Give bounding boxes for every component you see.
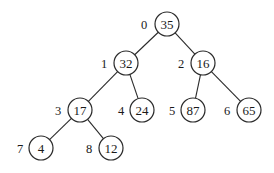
node-value: 4 — [38, 141, 45, 156]
tree-node-4: 244 — [118, 98, 154, 122]
node-index-label: 8 — [86, 142, 92, 156]
node-value: 87 — [187, 103, 201, 118]
node-index-label: 4 — [118, 104, 125, 118]
node-value: 12 — [105, 141, 118, 156]
tree-edge — [130, 74, 138, 98]
node-value: 17 — [74, 103, 88, 118]
node-index-label: 2 — [178, 57, 184, 71]
tree-edge — [175, 33, 195, 54]
node-value: 32 — [120, 56, 133, 71]
tree-node-6: 656 — [224, 98, 261, 122]
tree-edge — [211, 72, 240, 102]
tree-edge — [88, 72, 117, 102]
node-index-label: 6 — [224, 104, 230, 118]
node-value: 16 — [197, 56, 211, 71]
tree-edge — [50, 118, 72, 139]
node-index-label: 0 — [141, 18, 147, 32]
node-value: 35 — [161, 17, 174, 32]
tree-node-2: 162 — [178, 51, 215, 75]
node-value: 65 — [243, 103, 256, 118]
node-index-label: 7 — [17, 142, 23, 156]
tree-edge — [195, 75, 200, 99]
tree-edge — [135, 32, 159, 54]
heap-tree-diagram: 35032116217324487565647128 — [0, 0, 274, 173]
node-index-label: 1 — [101, 57, 107, 71]
node-index-label: 5 — [169, 104, 175, 118]
tree-node-0: 350 — [141, 12, 179, 36]
tree-edge — [88, 119, 104, 138]
tree-node-8: 128 — [86, 136, 123, 160]
edges — [50, 32, 241, 139]
tree-node-3: 173 — [55, 98, 92, 122]
node-index-label: 3 — [55, 104, 61, 118]
tree-node-5: 875 — [169, 98, 205, 122]
nodes: 35032116217324487565647128 — [17, 12, 261, 160]
node-value: 24 — [136, 103, 150, 118]
tree-node-7: 47 — [17, 136, 53, 160]
tree-svg: 35032116217324487565647128 — [0, 0, 274, 173]
tree-node-1: 321 — [101, 51, 138, 75]
